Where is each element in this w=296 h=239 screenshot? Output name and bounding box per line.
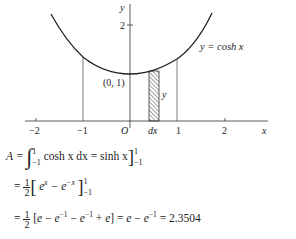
hatched-strip [149,71,159,121]
eq2-body: ex − e−x [39,180,74,192]
strip-width-label: dx [148,126,157,136]
strip-height-label: y [162,90,166,100]
origin-label: O [121,126,128,136]
x-tick-label: −1 [77,126,88,136]
equation-line-1: A = ∫1−1 cosh x dx = sinh x]1−1 [6,146,142,168]
eq3-body: [e − e−1 − e−1 + e] = e − e−1 = 2.3504 [33,212,200,224]
curve-label: y = cosh x [200,42,244,52]
eval-limits: 1−1 [134,146,143,168]
half-fraction: 12 [23,210,30,229]
cosh-curve [51,13,212,74]
eval-limits: 1−1 [84,176,93,198]
equation-line-2: = 12[ ex − e−x ]1−1 [14,176,92,198]
point-label: (0, 1) [103,78,125,88]
y-axis-label: y [120,3,124,13]
cosh-graph [0,0,296,135]
x-axis-label: x [262,126,266,136]
integral-limits: 1−1 [32,146,41,168]
x-tick-label: 2 [222,126,227,136]
x-tick-label: 1 [176,126,181,136]
x-tick-label: −2 [29,126,40,136]
y-tick-2-label: 2 [120,21,125,31]
equation-line-3: = 12 [e − e−1 − e−1 + e] = e − e−1 = 2.3… [14,208,201,229]
eq1-integrand: cosh x dx = sinh x [44,150,128,162]
eq1-lhs: A = [6,150,23,162]
